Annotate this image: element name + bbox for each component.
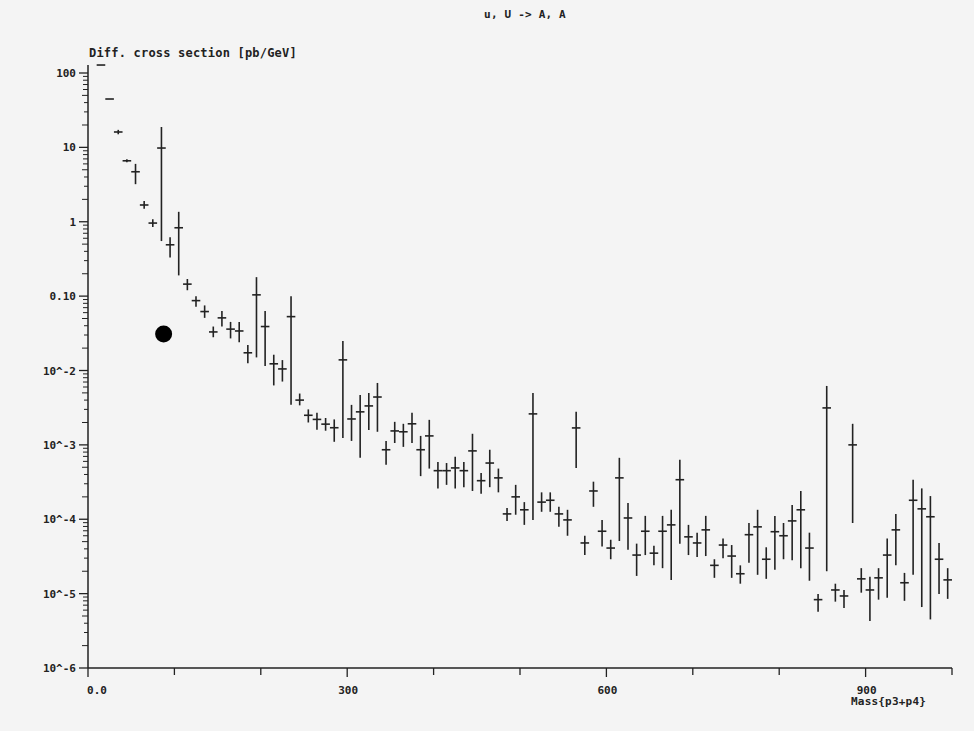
data-point <box>710 559 719 578</box>
data-point <box>468 434 477 491</box>
data-point <box>926 496 935 619</box>
data-point <box>347 405 356 441</box>
data-point <box>736 565 745 583</box>
data-point <box>183 279 192 290</box>
data-point <box>753 510 762 575</box>
data-point <box>624 503 633 550</box>
data-point <box>866 577 875 621</box>
data-point <box>261 311 270 366</box>
data-point <box>287 296 296 405</box>
data-point <box>641 516 650 555</box>
data-point <box>693 533 702 557</box>
x-tick-label: 0.0 <box>87 684 107 697</box>
y-tick-label: 10 <box>63 141 76 154</box>
data-point <box>701 516 710 556</box>
data-point <box>745 523 754 563</box>
axes: 1001010.1010^-210^-310^-410^-510^-60.030… <box>43 65 952 697</box>
data-point <box>157 127 166 241</box>
data-point <box>252 277 261 357</box>
data-point <box>857 568 866 593</box>
data-point <box>831 584 840 602</box>
data-point <box>546 492 555 511</box>
data-point <box>771 516 780 570</box>
data-point <box>788 505 797 560</box>
data-point <box>822 386 831 571</box>
data-point <box>900 573 909 601</box>
data-point <box>658 516 667 568</box>
data-point <box>883 539 892 598</box>
data-point <box>140 201 149 209</box>
data-point <box>537 492 546 511</box>
data-point <box>779 523 788 559</box>
y-tick-label: 10^-3 <box>43 439 76 452</box>
data-point <box>434 462 443 488</box>
y-tick-label: 10^-2 <box>43 365 76 378</box>
data-point <box>762 547 771 579</box>
data-point <box>149 219 158 227</box>
data-point <box>382 441 391 465</box>
data-point <box>365 393 374 430</box>
data-point <box>667 510 676 580</box>
x-tick-label: 900 <box>857 684 877 697</box>
data-point <box>684 525 693 555</box>
data-marker-dot <box>155 325 172 342</box>
data-point <box>727 545 736 578</box>
y-tick-label: 10^-6 <box>43 662 76 675</box>
data-point <box>581 536 590 555</box>
data-point <box>174 212 183 276</box>
data-point <box>416 436 425 476</box>
data-point <box>494 469 503 493</box>
x-tick-label: 300 <box>338 684 358 697</box>
data-point <box>451 457 460 489</box>
data-point <box>589 482 598 507</box>
data-point <box>805 533 814 581</box>
data-point <box>200 305 209 317</box>
data-point <box>330 419 339 441</box>
data-point <box>304 409 313 422</box>
data-point <box>295 394 304 406</box>
data-point <box>917 488 926 607</box>
data-point <box>373 383 382 432</box>
data-point <box>892 514 901 565</box>
data-point <box>218 311 227 326</box>
data-point <box>269 355 278 386</box>
y-tick-label: 10^-5 <box>43 588 76 601</box>
data-point <box>615 458 624 541</box>
data-point <box>511 485 520 515</box>
data-point <box>235 322 244 342</box>
data-point <box>442 463 451 485</box>
data-point <box>339 341 348 438</box>
data-point <box>278 360 287 381</box>
data-point <box>909 480 918 575</box>
data-point <box>321 418 330 431</box>
data-point <box>503 508 512 521</box>
chart-canvas: 1001010.1010^-210^-310^-410^-510^-60.030… <box>0 0 974 731</box>
data-point <box>520 502 529 525</box>
data-point <box>477 473 486 494</box>
y-tick-label: 0.10 <box>50 290 77 303</box>
data-point <box>192 296 201 307</box>
data-point <box>719 539 728 559</box>
data-point <box>563 510 572 536</box>
data-point <box>676 460 685 544</box>
y-tick-label: 10^-4 <box>43 513 76 526</box>
data-point <box>244 345 253 363</box>
data-point <box>356 395 365 458</box>
y-tick-label: 1 <box>69 216 76 229</box>
data-series <box>97 65 952 621</box>
data-point <box>408 413 417 443</box>
data-point <box>399 424 408 447</box>
data-point <box>840 590 849 608</box>
data-point <box>943 568 952 599</box>
data-point <box>606 540 615 559</box>
data-point <box>632 544 641 576</box>
data-point <box>529 393 538 520</box>
data-point <box>460 462 469 487</box>
y-tick-label: 100 <box>56 67 76 80</box>
data-point <box>598 520 607 547</box>
data-point <box>226 322 235 339</box>
data-point <box>650 546 659 566</box>
data-point <box>485 450 494 487</box>
data-point <box>814 594 823 612</box>
data-point <box>131 164 140 184</box>
